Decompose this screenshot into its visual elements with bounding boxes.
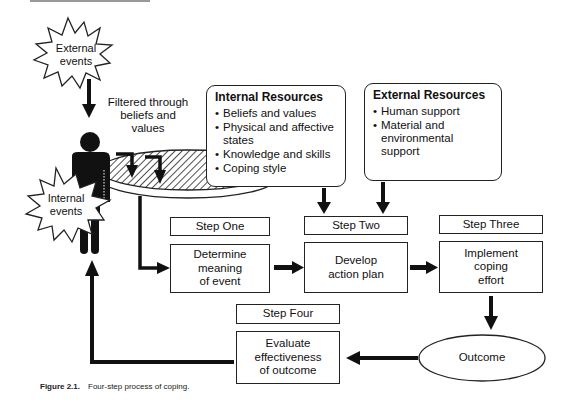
step-three-action-text: Implement coping effort <box>464 247 518 288</box>
step-three-line-2: coping <box>464 260 518 274</box>
arrow-step-two-to-three <box>410 261 438 274</box>
internal-events-line-1: Internal <box>38 192 94 205</box>
internal-resource-item: Coping style <box>215 162 337 175</box>
filter-label-line-2: beliefs and <box>100 109 196 122</box>
external-resource-item: Human support <box>373 105 473 118</box>
figure-caption-text: Four-step process of coping. <box>88 382 189 391</box>
external-events-line-1: External <box>46 42 106 55</box>
step-two-line-1: Develop <box>328 254 384 268</box>
step-one-line-2: meaning <box>193 262 246 276</box>
external-events-label: External events <box>46 42 106 68</box>
internal-events-line-2: events <box>38 205 94 218</box>
internal-resource-item: Beliefs and values <box>215 107 337 120</box>
internal-resources-box: Internal Resources Beliefs and values Ph… <box>206 85 346 187</box>
step-one-label: Step One <box>170 217 270 236</box>
internal-events-label: Internal events <box>38 192 94 218</box>
arrow-external-resources-to-step-two <box>376 182 390 214</box>
internal-resources-list: Beliefs and values Physical and affectiv… <box>215 107 337 175</box>
step-two-action-box: Develop action plan <box>304 242 408 293</box>
filter-label: Filtered through beliefs and values <box>100 96 196 135</box>
step-one-action-box: Determine meaning of event <box>170 244 270 293</box>
arrow-external-to-person <box>82 79 96 118</box>
step-three-line-1: Implement <box>464 247 518 261</box>
figure-caption: Figure 2.1.Four-step process of coping. <box>40 382 189 391</box>
arrow-internal-resources-to-step-two <box>317 188 331 214</box>
internal-resource-item: Knowledge and skills <box>215 148 337 161</box>
outcome-label: Outcome <box>440 351 524 364</box>
external-resource-item: Material and environmental support <box>373 119 473 158</box>
step-four-line-1: Evaluate <box>255 337 322 351</box>
step-two-action-text: Develop action plan <box>328 254 384 281</box>
arrow-disc-to-step-one <box>140 196 170 274</box>
external-resources-box: External Resources Human support Materia… <box>364 83 502 181</box>
arrow-step-one-to-two <box>274 261 304 274</box>
arrow-outcome-to-evaluate <box>346 351 418 365</box>
figure-number: Figure 2.1. <box>40 382 80 391</box>
filter-label-line-1: Filtered through <box>100 96 196 109</box>
step-three-action-box: Implement coping effort <box>439 241 543 293</box>
external-resources-title: External Resources <box>373 89 493 102</box>
internal-resource-item: Physical and affective states <box>215 121 337 147</box>
step-four-action-box: Evaluate effectiveness of outcome <box>236 331 340 384</box>
step-one-line-3: of event <box>193 275 246 289</box>
step-two-label: Step Two <box>304 216 408 235</box>
internal-resources-title: Internal Resources <box>215 91 337 104</box>
step-three-line-3: effort <box>464 274 518 288</box>
external-resources-list: Human support Material and environmental… <box>373 105 473 158</box>
step-four-line-2: effectiveness <box>255 351 322 365</box>
filter-label-line-3: values <box>100 122 196 135</box>
step-one-action-text: Determine meaning of event <box>193 248 246 289</box>
step-four-action-text: Evaluate effectiveness of outcome <box>255 337 322 378</box>
external-events-line-2: events <box>46 55 106 68</box>
step-one-line-1: Determine <box>193 248 246 262</box>
step-four-line-3: of outcome <box>255 364 322 378</box>
step-three-label: Step Three <box>439 215 543 234</box>
step-two-line-2: action plan <box>328 268 384 282</box>
arrow-step-three-to-outcome <box>484 296 498 330</box>
step-four-label: Step Four <box>236 304 340 324</box>
